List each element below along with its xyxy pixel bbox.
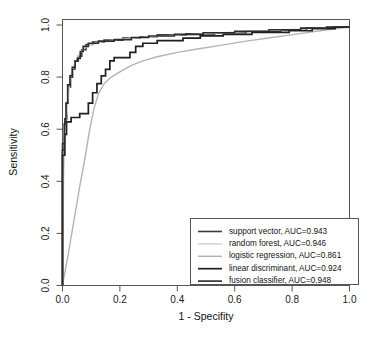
x-tick-label: 0.2 bbox=[113, 294, 127, 305]
roc-curve-figure: 0.00.20.40.60.81.0 0.00.20.40.60.81.0 1 … bbox=[0, 0, 379, 338]
y-tick-label: 1.0 bbox=[40, 18, 51, 32]
x-tick-label: 0.4 bbox=[170, 294, 184, 305]
legend-label-support-vector: support vector, AUC=0.943 bbox=[229, 227, 328, 236]
roc-plot-svg: 0.00.20.40.60.81.0 0.00.20.40.60.81.0 1 … bbox=[0, 0, 379, 338]
x-axis-title: 1 - Specifity bbox=[179, 310, 235, 322]
x-tick-label: 0.6 bbox=[228, 294, 242, 305]
y-tick-label: 0.0 bbox=[40, 278, 51, 292]
y-tick-label: 0.6 bbox=[40, 122, 51, 136]
legend-label-random-forest: random forest, AUC=0.946 bbox=[229, 239, 327, 248]
y-tick-label: 0.2 bbox=[40, 226, 51, 240]
y-axis-title: Sensitivity bbox=[7, 128, 19, 176]
y-tick-label: 0.8 bbox=[40, 70, 51, 84]
x-tick-label: 0.8 bbox=[285, 294, 299, 305]
y-tick-label: 0.4 bbox=[40, 174, 51, 188]
legend-label-linear-discriminant: linear discriminant, AUC=0.924 bbox=[229, 264, 342, 273]
legend-label-logistic-regression: logistic regression, AUC=0.861 bbox=[229, 251, 342, 260]
x-tick-label: 1.0 bbox=[343, 294, 357, 305]
x-tick-label: 0.0 bbox=[56, 294, 70, 305]
legend-label-fusion-classifier: fusion classifier, AUC=0.948 bbox=[229, 276, 332, 285]
chart-legend: support vector, AUC=0.943random forest, … bbox=[191, 219, 359, 286]
